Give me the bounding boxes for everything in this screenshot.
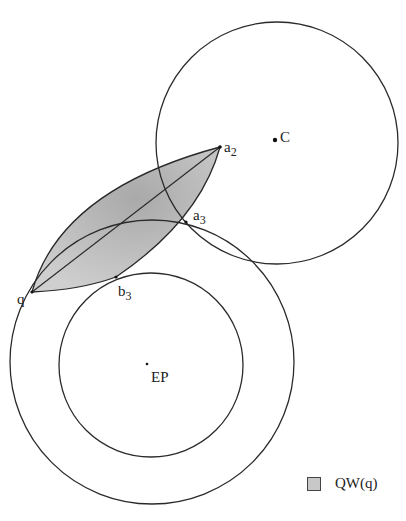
legend: QW(q) (307, 475, 377, 492)
circle-inner (59, 273, 243, 457)
legend-label: QW(q) (335, 475, 377, 492)
point-C (273, 138, 277, 142)
label-C: C (280, 130, 290, 145)
point-EP (146, 363, 149, 366)
geometry-svg (0, 0, 406, 521)
legend-swatch (307, 477, 321, 491)
point-a2 (218, 145, 222, 149)
point-q (30, 290, 33, 293)
label-a2: a2 (224, 140, 237, 158)
point-b3 (114, 275, 117, 278)
circle-upper (156, 22, 398, 264)
label-b3: b3 (118, 284, 132, 302)
point-a3 (184, 220, 187, 223)
label-a3: a3 (193, 208, 206, 226)
label-EP: EP (151, 370, 169, 385)
diagram-canvas: C EP q a2 a3 b3 QW(q) (0, 0, 406, 521)
label-q: q (17, 292, 25, 307)
